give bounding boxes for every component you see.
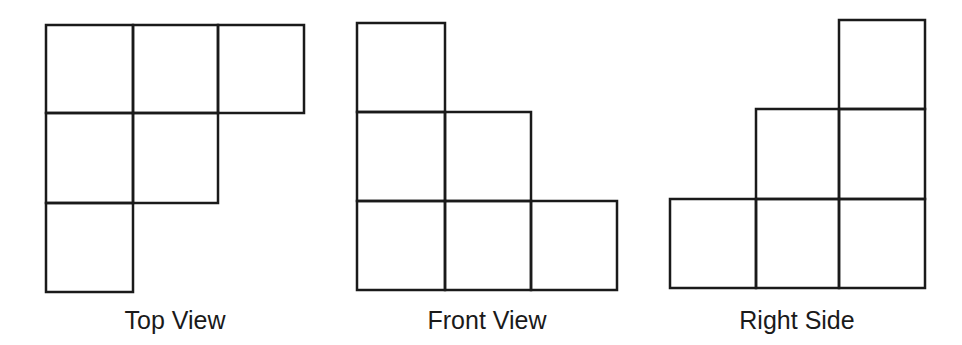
right-view-cell xyxy=(756,109,839,199)
right-side-view-grid xyxy=(0,0,962,345)
right-side-view: Right Side xyxy=(0,0,962,345)
right-view-cell xyxy=(670,199,756,288)
right-view-cell xyxy=(756,199,839,288)
right-view-cell xyxy=(839,20,925,109)
right-view-cell xyxy=(839,199,925,288)
right-view-cell xyxy=(839,109,925,199)
right-side-view-label: Right Side xyxy=(739,306,854,335)
